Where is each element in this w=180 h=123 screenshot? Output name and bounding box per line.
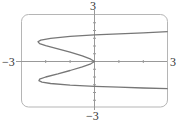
y-min-label: −3 <box>86 110 99 122</box>
x-min-label: −3 <box>2 56 15 68</box>
graph-canvas <box>0 0 180 123</box>
curve-line <box>38 32 168 89</box>
x-max-label: 3 <box>170 56 176 68</box>
y-max-label: 3 <box>90 0 96 12</box>
